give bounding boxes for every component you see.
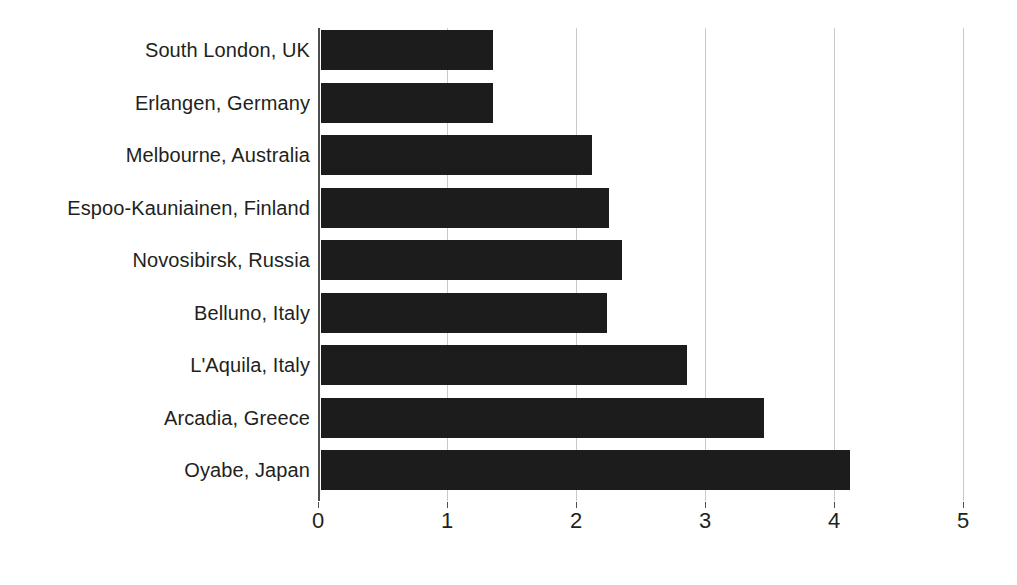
gridline-5 [963,28,964,502]
plot-area [318,28,964,502]
x-tick-label: 1 [427,508,467,534]
x-tick-label: 4 [814,508,854,534]
x-tick-label: 2 [556,508,596,534]
axis-line-zero [318,28,320,502]
bar [321,398,764,438]
x-tick-label: 3 [685,508,725,534]
category-axis-labels: South London, UKErlangen, GermanyMelbour… [0,30,310,502]
bar [321,83,493,123]
bar [321,188,609,228]
x-axis-baseline [318,501,964,502]
category-label: Espoo-Kauniainen, Finland [0,198,310,218]
category-label: Oyabe, Japan [0,460,310,480]
x-tick-mark-1 [447,502,448,508]
category-label: Novosibirsk, Russia [0,250,310,270]
bar [321,240,622,280]
x-tick-mark-4 [834,502,835,508]
category-label: L'Aquila, Italy [0,355,310,375]
value-axis-labels: 012345 [0,508,1017,548]
x-tick-mark-2 [576,502,577,508]
bar [321,30,493,70]
x-tick-label: 0 [298,508,338,534]
category-label: Erlangen, Germany [0,93,310,113]
category-label: Melbourne, Australia [0,145,310,165]
x-tick-label: 5 [943,508,983,534]
x-tick-mark-5 [963,502,964,508]
bar-chart: South London, UKErlangen, GermanyMelbour… [0,0,1017,585]
category-label: Belluno, Italy [0,303,310,323]
bar [321,345,687,385]
bar [321,293,607,333]
bar [321,450,850,490]
category-label: South London, UK [0,40,310,60]
category-label: Arcadia, Greece [0,408,310,428]
x-tick-mark-0 [318,502,319,508]
x-tick-mark-3 [705,502,706,508]
bar [321,135,592,175]
gridline-4 [834,28,835,502]
